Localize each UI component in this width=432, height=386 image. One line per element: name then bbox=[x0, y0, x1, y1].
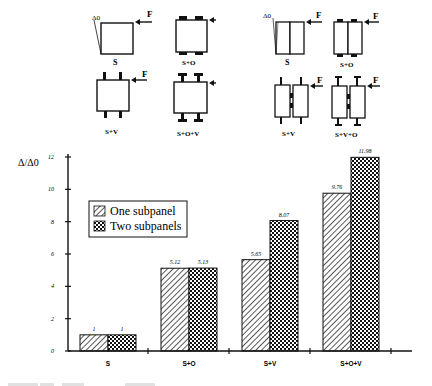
diagram-label: S bbox=[285, 58, 290, 67]
legend-swatch-one-subpanel bbox=[94, 206, 105, 216]
bar bbox=[351, 157, 379, 351]
x-axis: SS+OS+VS+O+V bbox=[68, 348, 412, 367]
diagram-label: S+O bbox=[182, 59, 196, 67]
bar bbox=[108, 335, 136, 351]
force-label: F bbox=[142, 69, 148, 79]
bar bbox=[323, 193, 351, 351]
bar-value-label: 1 bbox=[93, 326, 96, 332]
force-arrow-icon bbox=[306, 19, 311, 25]
x-category-label: S+O+V bbox=[340, 360, 362, 367]
force-arrow-icon bbox=[135, 19, 140, 25]
bar-value-label: 5.13 bbox=[198, 259, 209, 265]
y-tick-label: 12 bbox=[48, 154, 54, 160]
legend-label-two-subpanels: Two subpanels bbox=[110, 219, 182, 233]
x-category-label: S+O bbox=[182, 360, 195, 367]
diagram-two-subpanels-so: F S+O bbox=[334, 11, 379, 69]
bar bbox=[270, 221, 298, 351]
bar-group-s: 11 bbox=[80, 326, 136, 351]
force-arrow-icon bbox=[131, 77, 136, 83]
bar-value-label: 5.65 bbox=[251, 251, 262, 257]
bar-chart: Δ/Δ0 024681012 115.125.135.658.079.7611.… bbox=[18, 148, 412, 367]
force-label: F bbox=[373, 75, 379, 85]
diagram-one-subpanel-s: Δ0 F S bbox=[92, 9, 153, 67]
bar-value-label: 11.98 bbox=[358, 148, 371, 154]
diagram-one-subpanel-sv: F S+V bbox=[97, 69, 148, 136]
force-arrow-icon bbox=[367, 83, 372, 89]
bar-group-s-v: 5.658.07 bbox=[242, 212, 298, 351]
bar bbox=[189, 268, 217, 351]
y-tick-label: 10 bbox=[48, 186, 54, 192]
y-axis: 024681012 bbox=[48, 154, 71, 354]
bar bbox=[161, 268, 189, 351]
y-axis-label: Δ/Δ0 bbox=[18, 157, 39, 168]
legend: One subpanel Two subpanels bbox=[89, 201, 187, 237]
figure: Δ0 F S S+O F S+V S+O bbox=[0, 0, 432, 386]
delta0-label: Δ0 bbox=[263, 12, 272, 20]
bar-value-label: 9.76 bbox=[332, 184, 343, 190]
diagram-label: S+V bbox=[105, 128, 118, 136]
bar-value-label: 8.07 bbox=[279, 212, 291, 218]
bars: 115.125.135.658.079.7611.98 bbox=[80, 148, 379, 351]
diagram-one-subpanel-sov: S+O+V bbox=[174, 73, 216, 138]
legend-swatch-two-subpanels bbox=[94, 221, 105, 231]
bar bbox=[80, 335, 108, 351]
x-category-label: S bbox=[106, 360, 111, 367]
diagram-label: S bbox=[113, 58, 118, 67]
legend-label-one-subpanel: One subpanel bbox=[110, 204, 176, 218]
diagram-label: S+V bbox=[282, 130, 295, 138]
force-arrow-icon bbox=[310, 83, 315, 89]
diagram-one-subpanel-so: S+O bbox=[176, 16, 216, 67]
y-tick-label: 4 bbox=[51, 283, 54, 289]
force-arrow-icon bbox=[209, 17, 214, 23]
bar-group-s-o-v: 9.7611.98 bbox=[323, 148, 379, 351]
y-tick-label: 6 bbox=[51, 251, 54, 257]
force-label: F bbox=[147, 9, 153, 19]
force-label: F bbox=[373, 11, 379, 21]
y-tick-label: 2 bbox=[51, 316, 54, 322]
y-tick-label: 0 bbox=[51, 348, 54, 354]
diagram-two-subpanels-sv: F S+V bbox=[275, 75, 323, 138]
bar-value-label: 5.12 bbox=[170, 259, 181, 265]
y-tick-label: 8 bbox=[51, 219, 54, 225]
diagram-label: S+O+V bbox=[177, 130, 199, 138]
force-arrow-icon bbox=[364, 19, 369, 25]
bar-value-label: 1 bbox=[121, 326, 124, 332]
delta0-label: Δ0 bbox=[92, 14, 101, 22]
bar bbox=[242, 260, 270, 351]
x-category-label: S+V bbox=[264, 360, 277, 367]
diagram-label: S+O bbox=[340, 61, 354, 69]
diagram-two-subpanels-s: Δ0 F S bbox=[263, 10, 322, 67]
force-arrow-icon bbox=[209, 80, 214, 86]
force-label: F bbox=[316, 10, 322, 20]
bar-group-s-o: 5.125.13 bbox=[161, 259, 217, 351]
diagram-label: S+V+O bbox=[335, 131, 358, 139]
diagram-two-subpanels-svo: F S+V+O bbox=[332, 75, 380, 139]
force-label: F bbox=[317, 75, 323, 85]
